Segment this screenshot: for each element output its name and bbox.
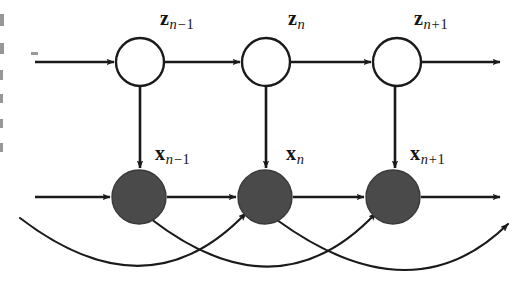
scan-artifact [0, 119, 3, 128]
subscript-operator: − [177, 16, 186, 32]
variable-symbol: x [155, 142, 165, 164]
variable-subscript: n−1 [166, 151, 190, 167]
observed-node [238, 170, 292, 224]
latent-node-label: zn+1 [414, 8, 447, 28]
variable-subscript: n [298, 16, 306, 32]
subscript-operator: + [428, 151, 437, 167]
subscript-base: n [424, 16, 431, 32]
variable-symbol: z [414, 7, 423, 29]
scan-artifact [0, 43, 4, 54]
subscript-base: n [298, 16, 305, 32]
subscript-number: 1 [438, 151, 445, 167]
observed-node [112, 170, 166, 224]
observed-node [366, 170, 420, 224]
scan-artifact [0, 94, 3, 103]
subscript-operator: + [431, 16, 440, 32]
variable-symbol: z [288, 7, 297, 29]
variable-symbol: x [410, 142, 420, 164]
latent-variable-nodes [116, 38, 421, 86]
subscript-operator [305, 16, 306, 32]
observed-variable-nodes [112, 170, 420, 224]
variable-subscript: n−1 [170, 16, 194, 32]
observed-node-label: xn [286, 143, 305, 163]
skip-arc [277, 220, 508, 270]
subscript-number: 1 [186, 16, 193, 32]
graphical-model-figure: zn−1 zn zn+1 xn−1 xn xn+1 [0, 0, 527, 294]
variable-subscript: n+1 [424, 16, 448, 32]
observed-node-label: xn+1 [410, 143, 445, 163]
subscript-base: n [170, 16, 177, 32]
subscript-number: 1 [183, 151, 190, 167]
subscript-number: 1 [440, 16, 447, 32]
variable-subscript: n+1 [421, 151, 445, 167]
scan-artifact [31, 52, 38, 55]
scan-artifact [0, 14, 4, 26]
latent-node-label: zn−1 [160, 8, 193, 28]
variable-symbol: z [160, 7, 169, 29]
variable-symbol: x [286, 142, 296, 164]
latent-node-label: zn [288, 8, 306, 28]
variable-subscript: n [297, 151, 305, 167]
latent-node [242, 38, 290, 86]
scan-artifact [0, 70, 3, 80]
latent-node [373, 38, 421, 86]
scan-artifact [0, 143, 3, 152]
observed-node-label: xn−1 [155, 143, 190, 163]
diagram-canvas [0, 0, 527, 294]
subscript-operator: − [173, 151, 182, 167]
latent-node [116, 38, 164, 86]
